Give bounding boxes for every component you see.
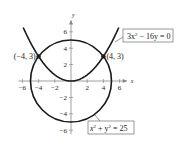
- y-tick-label: −4: [60, 110, 68, 118]
- x-tick-label: 6: [118, 84, 122, 92]
- x-axis-arrow-icon: [123, 79, 128, 83]
- y-axis-arrow-icon: [69, 20, 73, 25]
- y-axis-label: y: [71, 12, 75, 18]
- parabola-leader-line: [115, 37, 123, 42]
- y-tick-label: −2: [60, 94, 68, 102]
- y-tick-label: −6: [60, 127, 68, 135]
- x-axis-label: x: [130, 78, 134, 84]
- parabola-equation-label: 3x2 − 16y = 0: [127, 32, 171, 41]
- point-label: (−4, 3): [14, 52, 36, 61]
- intersection-point: [101, 54, 105, 58]
- x-tick-label: −6: [19, 84, 27, 92]
- x-tick-label: −2: [51, 84, 59, 92]
- y-tick-label: 2: [64, 61, 68, 69]
- intersection-point: [36, 54, 40, 58]
- y-tick-label: 6: [64, 28, 68, 36]
- x-tick-label: 2: [85, 84, 89, 92]
- x-tick-label: 4: [102, 84, 106, 92]
- graph-figure: xy−6−4−2246642−2−4−6 (−4, 3)(4, 3) 3x2 −…: [0, 0, 186, 148]
- intersection-points: (−4, 3)(4, 3): [14, 52, 124, 61]
- axes: xy−6−4−2246642−2−4−6: [18, 12, 133, 135]
- y-tick-label: 4: [64, 45, 68, 53]
- x-tick-label: −4: [35, 84, 43, 92]
- point-label: (4, 3): [106, 52, 124, 61]
- circle-leader-line: [95, 115, 100, 121]
